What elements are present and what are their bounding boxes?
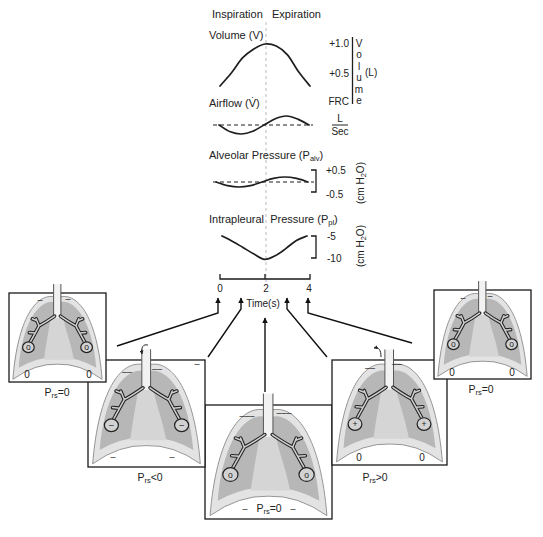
volume-tick-frc: FRC bbox=[328, 96, 349, 107]
alveolar-scale-bracket bbox=[311, 170, 316, 192]
apex-mark-left: –– bbox=[122, 367, 132, 377]
expiration-label: Expiration bbox=[272, 8, 321, 20]
base-mark-right: 0 bbox=[86, 369, 92, 380]
apex-mark-right: – bbox=[487, 291, 492, 301]
pressure-label: Prs=0 bbox=[44, 386, 69, 400]
arrow-t0-icon bbox=[117, 298, 218, 346]
alveolus-right-sign: o bbox=[84, 342, 89, 352]
alveolus-left-sign: – bbox=[109, 420, 114, 430]
lung-panel-t2: o o ––– ––– – – Prs=0 bbox=[205, 394, 332, 519]
inspiration-label: Inspiration bbox=[212, 8, 263, 20]
alveolus-right-sign: o bbox=[509, 339, 514, 349]
airflow-curve bbox=[219, 116, 309, 134]
volume-chart: Volume (V) +1.0 +0.5 FRC Volume (L) bbox=[209, 29, 377, 107]
base-mark-right: 0 bbox=[509, 367, 515, 378]
time-axis-label: Time(s) bbox=[246, 298, 280, 309]
base-mark-left: – bbox=[110, 452, 115, 462]
time-axis: 0 2 4 Time(s) bbox=[217, 274, 312, 309]
pressure-label: Prs>0 bbox=[362, 471, 387, 485]
airflow-title: Airflow (V̇) bbox=[209, 97, 260, 109]
time-tick-0: 0 bbox=[217, 283, 223, 294]
apex-mark-left: – bbox=[460, 293, 465, 303]
lung-panel-t0: o o – – 0 0 Prs=0 bbox=[9, 284, 106, 400]
pressure-label: Prs=0 bbox=[468, 383, 493, 397]
base-mark-left: 0 bbox=[24, 369, 30, 380]
intrapleural-pressure-chart: Intrapleural Pressure (Ppl) -5 -10 (cm H… bbox=[209, 213, 368, 267]
intrapleural-unit: (cm H2O) bbox=[355, 225, 368, 267]
intrapleural-tick-top: -5 bbox=[327, 231, 336, 242]
intrapleural-tick-bottom: -10 bbox=[327, 253, 342, 264]
airflow-out-arrow-icon bbox=[374, 348, 381, 357]
arrow-t4-icon bbox=[308, 298, 412, 343]
lung-panel-t3: + + –– –– 0 0 Prs>0 bbox=[332, 348, 447, 485]
alveolus-right-sign: – bbox=[179, 420, 184, 430]
apex-mark-right: –– bbox=[392, 359, 402, 369]
pressure-label: Prs<0 bbox=[137, 471, 162, 485]
alveolus-right-sign: + bbox=[422, 419, 427, 429]
alveolus-left-sign: o bbox=[26, 342, 31, 352]
alveolar-unit: (cm H2O) bbox=[355, 162, 368, 204]
figure-canvas: Inspiration Expiration Volume (V) +1.0 +… bbox=[0, 0, 543, 537]
alveolar-pressure-chart: Alveolar Pressure (Palv) +0.5 -0.5 (cm H… bbox=[209, 149, 368, 204]
intrapleural-pressure-curve bbox=[222, 236, 307, 259]
intrapleural-pressure-title: Intrapleural Pressure (Ppl) bbox=[209, 213, 338, 227]
volume-axis-label: Volume bbox=[355, 38, 363, 106]
time-tick-2: 2 bbox=[263, 283, 269, 294]
time-tick-4: 4 bbox=[306, 283, 312, 294]
volume-unit: (L) bbox=[365, 67, 377, 78]
base-mark-right: – bbox=[169, 452, 174, 462]
alveolus-left-sign: o bbox=[451, 339, 456, 349]
apex-mark-right: ––– bbox=[276, 408, 291, 418]
base-mark-right: 0 bbox=[419, 452, 425, 463]
intrapleural-scale-bracket bbox=[311, 236, 316, 258]
airflow-unit-numerator: L bbox=[337, 113, 343, 124]
apex-mark-right: – bbox=[65, 294, 70, 304]
alveolar-tick-top: +0.5 bbox=[326, 165, 346, 176]
base-mark-left: 0 bbox=[356, 452, 362, 463]
apex-mark-left: –– bbox=[365, 363, 375, 373]
corner-mark: – bbox=[194, 359, 199, 369]
base-mark-right: – bbox=[290, 504, 295, 514]
apex-mark-right: –– bbox=[152, 364, 162, 374]
apex-mark-left: ––– bbox=[239, 411, 254, 421]
base-mark-left: 0 bbox=[449, 367, 455, 378]
time-axis-line bbox=[220, 274, 310, 279]
alveolus-right-sign: o bbox=[304, 470, 309, 480]
respiration-figure: Inspiration Expiration Volume (V) +1.0 +… bbox=[0, 0, 543, 537]
alveolus-left-sign: o bbox=[228, 470, 233, 480]
pressure-label: Prs=0 bbox=[256, 502, 281, 516]
volume-tick-05: +0.5 bbox=[329, 68, 349, 79]
apex-mark-left: – bbox=[37, 295, 42, 305]
volume-curve bbox=[220, 44, 310, 86]
arrow-t1-icon bbox=[208, 298, 241, 357]
base-mark-left: – bbox=[242, 504, 247, 514]
alveolus-left-sign: + bbox=[353, 419, 358, 429]
airflow-unit-denominator: Sec bbox=[331, 126, 348, 137]
alveolar-pressure-title: Alveolar Pressure (Palv) bbox=[209, 149, 323, 163]
arrow-t3-icon bbox=[287, 298, 327, 357]
volume-tick-1: +1.0 bbox=[329, 38, 349, 49]
volume-title: Volume (V) bbox=[209, 29, 263, 41]
alveolar-tick-bottom: -0.5 bbox=[326, 189, 344, 200]
lung-panel-t4: o o – – 0 0 Prs=0 bbox=[434, 281, 531, 397]
